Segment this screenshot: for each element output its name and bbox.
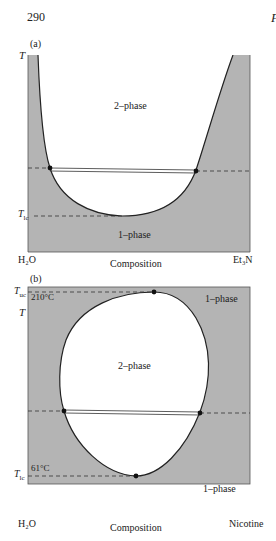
- panel-b-tlc-label: Tlc: [14, 468, 25, 482]
- panel-a-left-component: H₂O: [18, 254, 36, 265]
- panel-b-two-phase-label: 2–phase: [118, 360, 151, 371]
- panel-b-y-axis-label: T: [19, 306, 25, 318]
- panel-a-y-axis-label: T: [19, 49, 25, 61]
- panel-b-plot: [28, 287, 250, 484]
- panel-b-tuc-label: Tuc: [14, 285, 26, 299]
- panel-b-tlc-temperature: 61°C: [31, 463, 50, 473]
- panel-a-x-axis-label: Composition: [110, 258, 162, 269]
- panel-b-upper-one-phase-label: 1–phase: [205, 293, 238, 304]
- panel-a-label: (a): [30, 38, 41, 49]
- panel-a-plot: [28, 40, 250, 252]
- panel-b-left-component: H₂O: [18, 518, 36, 529]
- panel-a-right-component: Et₃N: [233, 254, 253, 265]
- phase-diagram-figure: [0, 0, 276, 541]
- panel-a-one-phase-label: 1–phase: [118, 229, 151, 240]
- panel-b-right-component: Nicotine: [229, 518, 263, 529]
- panel-b-label: (b): [30, 273, 42, 284]
- panel-b-lower-one-phase-label: 1–phase: [203, 483, 236, 494]
- panel-a-tlc-label: Tlc: [18, 208, 29, 222]
- panel-a-two-phase-label: 2–phase: [114, 100, 147, 111]
- panel-b-tuc-temperature: 210°C: [31, 292, 54, 302]
- panel-b-x-axis-label: Composition: [110, 522, 162, 533]
